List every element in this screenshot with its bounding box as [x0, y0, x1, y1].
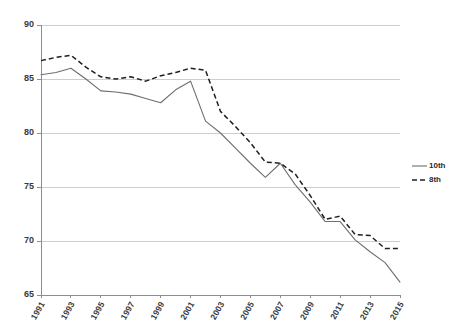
axes: [41, 25, 400, 295]
series-line-8th: [41, 55, 400, 248]
legend-label-10th: 10th: [429, 161, 446, 170]
y-tick-label-85: 85: [24, 73, 34, 83]
y-axis-tick-labels: 657075808590: [24, 19, 41, 299]
x-tick-label-2009: 2009: [298, 300, 316, 322]
x-tick-label-1993: 1993: [59, 300, 77, 322]
x-tick-label-2003: 2003: [208, 300, 226, 322]
y-tick-label-65: 65: [24, 289, 34, 299]
y-tick-label-75: 75: [24, 181, 34, 191]
x-tick-label-2013: 2013: [358, 300, 376, 322]
x-tick-label-2015: 2015: [388, 300, 406, 322]
chart-legend: 10th8th: [412, 161, 446, 184]
x-tick-label-1997: 1997: [118, 300, 136, 322]
x-tick-label-2011: 2011: [328, 300, 346, 321]
line-chart: 657075808590 199119931995199719992001200…: [0, 0, 474, 334]
series-line-10th: [41, 68, 400, 282]
x-tick-label-2007: 2007: [268, 300, 286, 322]
x-axis-tick-labels: 1991199319951997199920012003200520072009…: [29, 295, 406, 321]
y-tick-label-70: 70: [24, 235, 34, 245]
x-tick-label-2005: 2005: [238, 300, 256, 322]
x-tick-label-1991: 1991: [29, 300, 47, 322]
data-series: [41, 55, 400, 282]
y-tick-label-90: 90: [24, 19, 34, 29]
y-tick-label-80: 80: [24, 127, 34, 137]
chart-canvas: 657075808590 199119931995199719992001200…: [0, 0, 474, 334]
x-tick-label-1999: 1999: [148, 300, 166, 322]
legend-label-8th: 8th: [429, 175, 441, 184]
x-tick-label-1995: 1995: [88, 300, 106, 322]
x-tick-label-2001: 2001: [178, 300, 196, 322]
